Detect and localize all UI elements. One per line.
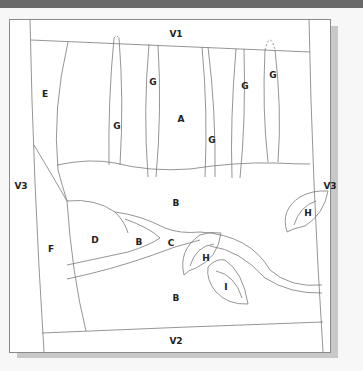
label-g5: G	[269, 71, 276, 80]
applique-pattern-drawing	[0, 0, 363, 371]
label-d: D	[91, 236, 98, 245]
label-b-mid: B	[136, 238, 143, 247]
g-cap-1	[114, 36, 119, 38]
branch-c-bottom	[67, 240, 200, 279]
label-g2: G	[149, 78, 156, 87]
g-stalk-5	[264, 50, 279, 162]
v3-left-border	[30, 19, 44, 352]
label-g3: G	[208, 136, 215, 145]
e-inner	[34, 145, 67, 201]
branch-c-inner	[67, 219, 160, 265]
a-bottom-wave	[57, 161, 310, 170]
d-boundary	[67, 200, 128, 233]
label-v3-right: V3	[323, 182, 336, 191]
v3-right-border	[309, 19, 323, 352]
leaf-i-vein	[216, 271, 242, 298]
stem-upper	[200, 232, 322, 285]
label-b-top: B	[173, 199, 180, 208]
f-boundary	[67, 201, 86, 331]
g-cap-5	[265, 40, 275, 50]
label-b-bottom: B	[173, 294, 180, 303]
g-stalk-3	[202, 47, 215, 177]
label-h-right: H	[304, 209, 312, 218]
label-h-center: H	[202, 254, 210, 263]
label-i: I	[224, 283, 227, 292]
label-e: E	[42, 90, 48, 99]
label-v1: V1	[169, 30, 182, 39]
label-g4: G	[241, 82, 248, 91]
label-v2: V2	[169, 337, 182, 346]
label-v3-left: V3	[14, 182, 27, 191]
label-c: C	[168, 239, 175, 248]
label-g1: G	[113, 122, 120, 131]
g-stalk-2	[146, 44, 160, 177]
label-f: F	[48, 245, 54, 254]
label-a: A	[178, 115, 185, 124]
g-stalk-1	[109, 38, 122, 165]
branch-c-top	[115, 212, 200, 233]
g-stalk-4	[232, 49, 245, 178]
e-boundary	[56, 42, 68, 201]
